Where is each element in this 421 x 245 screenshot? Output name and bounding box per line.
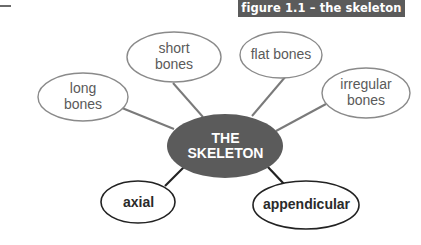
flat-bones-label: flat bones: [240, 32, 322, 78]
irregular-bones-label: irregular bones: [322, 68, 410, 118]
connector-flat-bones: [252, 76, 286, 116]
short-bones-label: short bones: [127, 32, 221, 82]
axial-label: axial: [101, 181, 176, 224]
skeleton-center-label: THE SKELETON: [168, 114, 283, 178]
appendicular-label: appendicular: [253, 181, 360, 229]
long-bones-label: long bones: [38, 73, 128, 121]
connector-irregular-bones: [276, 104, 326, 131]
connector-long-bones: [122, 108, 174, 129]
connector-short-bones: [173, 83, 203, 117]
